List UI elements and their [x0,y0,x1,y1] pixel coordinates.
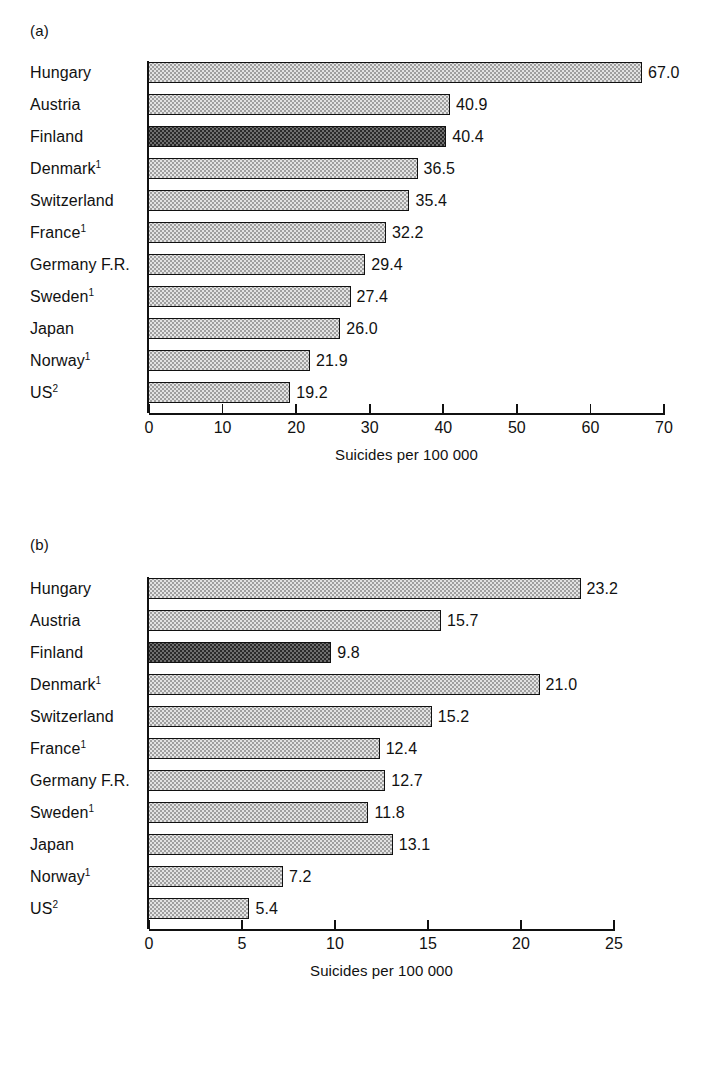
category-label: Denmark1 [30,669,101,701]
category-label: Switzerland [30,185,114,217]
x-axis-tick [241,920,243,929]
category-label: Japan [30,829,74,861]
x-axis-tick-label: 25 [605,935,623,953]
bar-row: Switzerland15.2 [0,701,710,733]
footnote-marker: 2 [52,383,58,394]
category-label: Hungary [30,57,91,89]
bar-row: Norway121.9 [0,345,710,377]
bar [149,382,290,403]
bar [149,674,540,695]
bar-value-label: 11.8 [374,797,404,829]
footnote-marker: 1 [88,803,94,814]
bar [149,254,365,275]
bar [149,62,642,83]
x-axis-title: Suicides per 100 000 [335,446,478,463]
x-axis-tick-label: 70 [655,419,673,437]
x-axis-tick-label: 0 [145,419,154,437]
bar [149,866,283,887]
bar [149,706,432,727]
bar-row: Switzerland35.4 [0,185,710,217]
bar-value-label: 67.0 [648,57,680,89]
bar-value-label: 26.0 [346,313,378,345]
x-axis-tick [427,920,429,929]
bar-value-label: 40.9 [456,89,488,121]
bar-row: Sweden127.4 [0,281,710,313]
bar-row: Austria40.9 [0,89,710,121]
bar-value-label: 15.7 [447,605,479,637]
y-axis-spine [147,577,149,929]
footnote-marker: 1 [80,223,86,234]
bar [149,158,418,179]
bar [149,834,393,855]
x-axis-tick [148,920,150,929]
x-axis-tick-label: 20 [512,935,530,953]
footnote-marker: 1 [80,739,86,750]
category-label: Germany F.R. [30,249,130,281]
chart-panel-b: (b) Hungary23.2Austria15.7Finland9.8Denm… [0,528,710,1076]
bar [149,190,409,211]
bar-row: Finland9.8 [0,637,710,669]
bar [149,898,249,919]
bar-value-label: 7.2 [289,861,312,893]
bar-value-label: 29.4 [371,249,403,281]
panel-a-letter: (a) [30,22,49,39]
bar-value-label: 35.4 [415,185,447,217]
bar-row: Denmark136.5 [0,153,710,185]
x-axis-tick-label: 5 [238,935,247,953]
bar-value-label: 12.4 [386,733,418,765]
category-label: Norway1 [30,345,91,377]
x-axis-tick [442,404,444,413]
y-axis-spine [147,61,149,413]
category-label: Sweden1 [30,281,94,313]
bar [149,126,446,147]
bar-row: Sweden111.8 [0,797,710,829]
footnote-marker: 1 [85,867,91,878]
bar-value-label: 15.2 [438,701,470,733]
x-axis-tick-label: 20 [287,419,305,437]
bar [149,94,450,115]
bar-value-label: 19.2 [296,377,328,409]
bar-row: Finland40.4 [0,121,710,153]
x-axis-tick-label: 10 [326,935,344,953]
bar-row: Hungary67.0 [0,57,710,89]
bar [149,770,385,791]
bar-row: Japan26.0 [0,313,710,345]
bar-row: Norway17.2 [0,861,710,893]
bar [149,350,310,371]
bar [149,286,351,307]
x-axis-tick [516,404,518,413]
bar [149,802,368,823]
bar-row: US219.2 [0,377,710,409]
bar-row: France132.2 [0,217,710,249]
bar-value-label: 13.1 [399,829,431,861]
category-label: Sweden1 [30,797,94,829]
category-label: US2 [30,377,58,409]
bar-row: Austria15.7 [0,605,710,637]
bar [149,738,380,759]
category-label: Norway1 [30,861,91,893]
footnote-marker: 1 [96,675,102,686]
bar-row: Germany F.R.12.7 [0,765,710,797]
bar-value-label: 21.0 [546,669,578,701]
category-label: France1 [30,217,86,249]
footnote-marker: 2 [52,899,58,910]
category-label: Germany F.R. [30,765,130,797]
bar-row: US25.4 [0,893,710,925]
bar-value-label: 23.2 [587,573,619,605]
bar-value-label: 27.4 [357,281,389,313]
x-axis-line [149,413,665,415]
category-label: Austria [30,89,81,121]
x-axis-tick-label: 50 [508,419,526,437]
x-axis-tick [590,404,592,413]
bar [149,318,340,339]
bar-value-label: 9.8 [337,637,360,669]
x-axis-tick-label: 40 [434,419,452,437]
footnote-marker: 1 [96,159,102,170]
footnote-marker: 1 [88,287,94,298]
category-label: US2 [30,893,58,925]
x-axis-tick [295,404,297,413]
bar-value-label: 5.4 [255,893,278,925]
footnote-marker: 1 [85,351,91,362]
bar-value-label: 40.4 [452,121,484,153]
x-axis-tick [613,920,615,929]
